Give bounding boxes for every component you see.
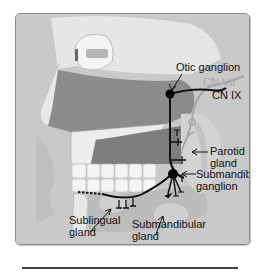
label-otic-ganglion: Otic ganglion [176, 61, 240, 73]
label-cn-ix: CN IX [212, 89, 241, 101]
label-parotid-gland-1: Parotid [210, 145, 245, 157]
divider-rule [22, 267, 238, 269]
label-sublingual-gland-2: gland [69, 226, 96, 238]
diagram-panel: Otic ganglion CN VII CN IX Parotid gland… [15, 13, 250, 245]
label-sublingual-gland-1: Sublingual [69, 214, 120, 226]
upper-teeth [72, 164, 156, 178]
label-submandibular-gland-1: Submandibular [132, 218, 206, 230]
label-submandibular-ganglion-2: ganglion [196, 180, 238, 192]
label-submandibular-ganglion-1: Submandibular [196, 168, 250, 180]
lower-teeth [72, 179, 156, 192]
label-submandibular-gland-2: gland [132, 230, 159, 242]
label-cn-vii: CN VII [203, 76, 235, 88]
anatomy-illustration [16, 14, 249, 244]
